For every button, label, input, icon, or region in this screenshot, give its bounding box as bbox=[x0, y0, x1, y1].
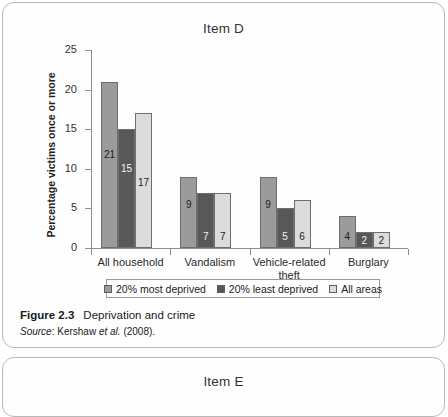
bar-value-label: 2 bbox=[374, 235, 389, 246]
bar: 7 bbox=[214, 193, 231, 248]
bar-value-label: 6 bbox=[295, 231, 310, 242]
y-tick-label: 25 bbox=[17, 43, 77, 55]
y-tick-mark bbox=[85, 50, 92, 51]
x-tick-mark bbox=[408, 249, 409, 255]
y-tick-label: 5 bbox=[17, 201, 77, 213]
bar-value-label: 21 bbox=[102, 149, 117, 160]
figure-caption: Figure 2.3Deprivation and crime bbox=[20, 309, 195, 321]
figure-number: Figure 2.3 bbox=[20, 309, 74, 321]
bar-value-label: 9 bbox=[261, 199, 276, 210]
source-year: (2008). bbox=[121, 326, 155, 337]
y-tick-mark bbox=[85, 169, 92, 170]
figure-source: Source: Kershaw et al. (2008). bbox=[20, 326, 155, 337]
bar: 17 bbox=[135, 113, 152, 248]
y-tick-mark bbox=[85, 90, 92, 91]
x-tick-mark bbox=[91, 249, 92, 255]
legend-swatch-icon bbox=[104, 285, 112, 293]
bar: 4 bbox=[339, 216, 356, 248]
legend-entry: 20% most deprived bbox=[104, 283, 206, 295]
item-d-panel: Item D Percentage victims once or more 0… bbox=[2, 2, 445, 348]
bar: 15 bbox=[118, 129, 135, 248]
bar: 2 bbox=[356, 232, 373, 248]
y-tick-mark bbox=[85, 129, 92, 130]
bar: 7 bbox=[197, 193, 214, 248]
y-tick-mark bbox=[85, 208, 92, 209]
bar-value-label: 7 bbox=[198, 231, 213, 242]
x-category-label-line: Burglary bbox=[329, 256, 408, 269]
bar: 21 bbox=[101, 82, 118, 248]
y-tick-label: 0 bbox=[17, 241, 77, 253]
x-tick-mark bbox=[170, 249, 171, 255]
bar: 5 bbox=[277, 208, 294, 248]
bar-value-label: 17 bbox=[136, 177, 151, 188]
bar-value-label: 4 bbox=[340, 231, 355, 242]
figure-title: Deprivation and crime bbox=[83, 309, 195, 321]
item-e-title: Item E bbox=[3, 374, 444, 389]
source-etal: et al. bbox=[99, 326, 121, 337]
x-category-label-line: All household bbox=[91, 256, 170, 269]
legend-swatch-icon bbox=[217, 285, 225, 293]
bar: 2 bbox=[373, 232, 390, 248]
bar-value-label: 7 bbox=[215, 231, 230, 242]
y-tick-label: 10 bbox=[17, 162, 77, 174]
legend-swatch-icon bbox=[329, 285, 337, 293]
x-tick-mark bbox=[250, 249, 251, 255]
x-category-label-line: Vehicle-related bbox=[250, 256, 329, 269]
x-category-label: Burglary bbox=[329, 256, 408, 269]
item-e-panel: Item E bbox=[2, 357, 445, 417]
source-separator: : Kershaw bbox=[52, 326, 99, 337]
legend-label: 20% least deprived bbox=[229, 283, 318, 295]
bar: 6 bbox=[294, 200, 311, 248]
bar-value-label: 5 bbox=[278, 231, 293, 242]
y-tick-label: 20 bbox=[17, 83, 77, 95]
legend-label: All areas bbox=[341, 283, 382, 295]
y-axis-line bbox=[91, 50, 92, 249]
chart-legend: 20% most deprived20% least deprivedAll a… bbox=[106, 279, 380, 298]
legend-entry: 20% least deprived bbox=[217, 283, 318, 295]
bar-value-label: 9 bbox=[181, 199, 196, 210]
legend-label: 20% most deprived bbox=[116, 283, 206, 295]
bar-value-label: 15 bbox=[119, 163, 134, 174]
deprivation-crime-bar-chart: Percentage victims once or more 05101520… bbox=[3, 3, 446, 323]
bar: 9 bbox=[260, 177, 277, 248]
x-category-label-line: Vandalism bbox=[170, 256, 249, 269]
legend-entry: All areas bbox=[329, 283, 382, 295]
bar-value-label: 2 bbox=[357, 235, 372, 246]
x-category-label: All household bbox=[91, 256, 170, 269]
y-tick-label: 15 bbox=[17, 122, 77, 134]
bar: 9 bbox=[180, 177, 197, 248]
x-category-label: Vandalism bbox=[170, 256, 249, 269]
x-tick-mark bbox=[329, 249, 330, 255]
source-label: Source bbox=[20, 326, 52, 337]
